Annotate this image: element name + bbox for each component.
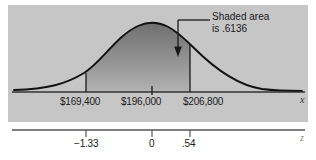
z-label-lower: −1.33 — [74, 138, 98, 149]
annotation-line-2: is .6136 — [212, 23, 269, 35]
z-label-center: 0 — [149, 138, 154, 149]
x-label-upper: $206,800 — [183, 96, 223, 107]
z-axis-letter: z — [300, 132, 304, 143]
x-label-mean: $196,000 — [121, 96, 161, 107]
shaded-area-annotation: Shaded area is .6136 — [212, 11, 269, 34]
z-label-upper: .54 — [182, 138, 195, 149]
normal-curve-figure: Shaded area is .6136 $169,400 $196,000 $… — [0, 0, 316, 160]
x-label-lower: $169,400 — [60, 96, 100, 107]
annotation-line-1: Shaded area — [212, 11, 269, 23]
x-axis-letter: x — [300, 94, 304, 105]
